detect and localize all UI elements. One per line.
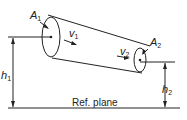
section-a2-center-dot [139,59,142,62]
label-v1: v1 [69,28,78,40]
label-ref-plane: Ref. plane [72,98,118,108]
label-h2-subscript: 2 [168,89,172,96]
label-h2: h2 [162,84,172,96]
pipe-bottom-wall [52,58,142,73]
h2-arrow-up-icon [163,63,167,69]
label-a2: A2 [150,37,161,49]
section-a1-center-dot [50,36,53,39]
label-a1: A1 [30,10,41,22]
h2-arrow-down-icon [163,101,167,107]
label-v2-subscript: 2 [126,51,130,58]
bernoulli-pipe-diagram: A1 v1 v2 A2 h1 h2 Ref. plane [0,0,187,120]
label-a2-subscript: 2 [157,42,161,49]
v1-arrowhead-icon [71,41,77,45]
pipe-top-wall [48,15,150,46]
label-a1-subscript: 1 [37,15,41,22]
label-h1: h1 [1,70,11,82]
label-v2: v2 [120,46,129,58]
h1-arrow-up-icon [11,38,15,44]
h1-arrow-down-icon [11,101,15,107]
label-v1-subscript: 1 [75,33,79,40]
label-h1-subscript: 1 [7,75,11,82]
